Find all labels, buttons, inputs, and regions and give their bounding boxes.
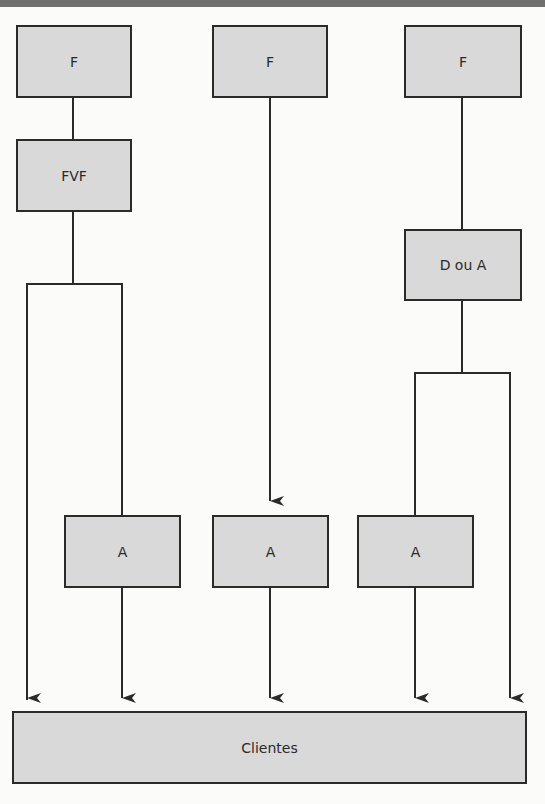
node-f-left: F: [16, 25, 132, 98]
node-label: F: [70, 54, 78, 70]
node-label: FVF: [61, 168, 87, 184]
node-fvf: FVF: [16, 139, 132, 212]
node-label: A: [118, 544, 128, 560]
edge-fvf-branch-lines: [27, 284, 122, 700]
node-label: Clientes: [241, 740, 297, 756]
node-f-middle: F: [212, 25, 328, 98]
node-d-ou-a: D ou A: [404, 229, 522, 301]
node-label: A: [411, 544, 421, 560]
node-a-right: A: [357, 515, 474, 588]
node-label: D ou A: [440, 257, 487, 273]
node-label: F: [459, 54, 467, 70]
node-label: A: [266, 544, 276, 560]
connector-lines: [0, 0, 545, 804]
node-a-left: A: [64, 515, 181, 588]
node-label: F: [266, 54, 274, 70]
node-f-right: F: [404, 25, 522, 98]
node-clientes: Clientes: [12, 711, 527, 784]
node-a-middle: A: [212, 515, 329, 588]
